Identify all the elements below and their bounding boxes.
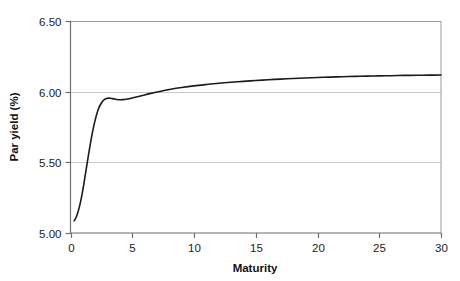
x-tick-label: 15 xyxy=(250,242,263,254)
x-tick-label: 5 xyxy=(129,242,135,254)
y-axis-title: Par yield (%) xyxy=(8,92,20,161)
y-tick-label: 6.50 xyxy=(39,16,61,28)
x-axis-title: Maturity xyxy=(233,262,278,274)
x-tick-label: 0 xyxy=(68,242,74,254)
y-tick-label: 5.50 xyxy=(39,157,61,169)
chart-figure: 5.005.506.006.50 051015202530 Maturity P… xyxy=(0,0,460,281)
chart-background xyxy=(0,0,460,281)
x-tick-label: 25 xyxy=(373,242,386,254)
par-yield-chart: 5.005.506.006.50 051015202530 Maturity P… xyxy=(0,0,460,281)
x-tick-label: 30 xyxy=(435,242,448,254)
y-tick-label: 6.00 xyxy=(39,87,61,99)
x-tick-label: 20 xyxy=(312,242,325,254)
y-tick-label: 5.00 xyxy=(39,228,61,240)
x-tick-label: 10 xyxy=(188,242,201,254)
